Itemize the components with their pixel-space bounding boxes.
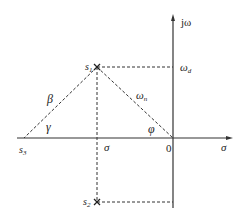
sigma-point-label: σ	[104, 141, 110, 153]
gamma-label: γ	[46, 120, 51, 134]
sigma-axis-label: σ	[221, 141, 227, 153]
phi-label: φ	[148, 122, 155, 136]
omega-n-label: ωn	[136, 89, 148, 103]
origin-label: 0	[166, 142, 172, 154]
s3-label: s3	[19, 144, 27, 157]
arrow-right-icon	[226, 136, 233, 140]
s-plane-diagram: jω s1 ωd ωn β γ φ s3 σ 0 σ s2	[0, 0, 245, 224]
omega-d-label: ωd	[180, 61, 192, 75]
imaginary-axis	[171, 14, 175, 208]
real-axis	[17, 136, 233, 140]
s2-label: s2	[83, 196, 91, 209]
omega-n-line	[97, 67, 173, 138]
s3-line	[24, 67, 97, 138]
s1-label: s1	[85, 61, 92, 74]
jomega-label: jω	[180, 16, 191, 28]
beta-label: β	[46, 92, 53, 106]
arrow-up-icon	[171, 14, 175, 21]
